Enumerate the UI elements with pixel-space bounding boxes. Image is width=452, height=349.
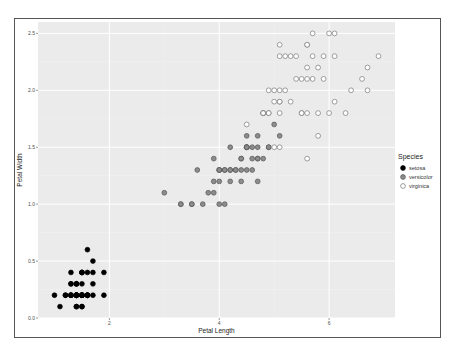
data-point-virginica bbox=[310, 54, 315, 59]
data-point-versicolor bbox=[239, 156, 244, 161]
data-point-setosa bbox=[102, 270, 107, 275]
data-point-virginica bbox=[283, 88, 288, 93]
data-point-versicolor bbox=[266, 145, 271, 150]
data-point-versicolor bbox=[250, 156, 255, 161]
data-point-setosa bbox=[69, 293, 74, 298]
data-point-setosa bbox=[69, 270, 74, 275]
data-point-setosa bbox=[80, 293, 85, 298]
data-point-virginica bbox=[349, 88, 354, 93]
data-point-versicolor bbox=[228, 168, 233, 173]
data-point-virginica bbox=[327, 111, 332, 116]
data-point-virginica bbox=[321, 54, 326, 59]
x-tick-label: 2 bbox=[108, 320, 111, 326]
data-point-setosa bbox=[102, 293, 107, 298]
y-axis: 0.00.51.01.52.02.5 bbox=[28, 30, 38, 321]
data-point-virginica bbox=[261, 111, 266, 116]
data-point-virginica bbox=[277, 99, 282, 104]
data-point-versicolor bbox=[255, 179, 260, 184]
data-point-virginica bbox=[305, 65, 310, 70]
data-point-setosa bbox=[91, 281, 96, 286]
data-point-versicolor bbox=[228, 179, 233, 184]
data-point-virginica bbox=[343, 111, 348, 116]
data-point-virginica bbox=[266, 88, 271, 93]
data-point-setosa bbox=[63, 293, 68, 298]
x-axis: 246 bbox=[108, 318, 331, 326]
data-point-versicolor bbox=[239, 179, 244, 184]
data-point-virginica bbox=[272, 88, 277, 93]
data-point-virginica bbox=[277, 54, 282, 59]
data-point-virginica bbox=[299, 77, 304, 82]
data-point-virginica bbox=[272, 99, 277, 104]
data-point-virginica bbox=[299, 111, 304, 116]
data-point-setosa bbox=[85, 247, 90, 252]
legend-label-virginica: virginica bbox=[409, 183, 430, 189]
data-point-virginica bbox=[305, 77, 310, 82]
data-point-virginica bbox=[332, 99, 337, 104]
data-point-setosa bbox=[91, 293, 96, 298]
x-tick-label: 4 bbox=[218, 320, 221, 326]
data-point-virginica bbox=[332, 31, 337, 36]
data-point-setosa bbox=[74, 304, 79, 309]
data-point-versicolor bbox=[244, 168, 249, 173]
y-tick-label: 1.5 bbox=[28, 144, 35, 150]
data-point-virginica bbox=[305, 156, 310, 161]
data-point-virginica bbox=[360, 77, 365, 82]
data-point-virginica bbox=[288, 99, 293, 104]
y-tick-label: 2.0 bbox=[28, 87, 35, 93]
data-point-versicolor bbox=[233, 168, 238, 173]
data-point-virginica bbox=[316, 111, 321, 116]
data-point-versicolor bbox=[211, 179, 216, 184]
data-point-virginica bbox=[310, 31, 315, 36]
data-point-virginica bbox=[316, 133, 321, 138]
data-point-virginica bbox=[316, 65, 321, 70]
data-point-versicolor bbox=[217, 168, 222, 173]
data-point-virginica bbox=[365, 65, 370, 70]
legend-title: Species bbox=[398, 153, 423, 161]
data-point-virginica bbox=[288, 54, 293, 59]
data-point-versicolor bbox=[222, 202, 227, 207]
data-point-versicolor bbox=[206, 190, 211, 195]
data-point-virginica bbox=[321, 77, 326, 82]
data-point-versicolor bbox=[244, 133, 249, 138]
data-point-versicolor bbox=[162, 190, 167, 195]
data-point-versicolor bbox=[277, 133, 282, 138]
data-point-setosa bbox=[85, 293, 90, 298]
data-point-virginica bbox=[277, 111, 282, 116]
data-point-versicolor bbox=[272, 122, 277, 127]
data-point-versicolor bbox=[239, 168, 244, 173]
data-point-setosa bbox=[74, 293, 79, 298]
data-point-virginica bbox=[332, 54, 337, 59]
data-point-virginica bbox=[283, 54, 288, 59]
data-point-versicolor bbox=[200, 202, 205, 207]
data-point-virginica bbox=[294, 77, 299, 82]
y-axis-title: Petal Width bbox=[16, 153, 23, 187]
data-point-setosa bbox=[80, 281, 85, 286]
legend-key-virginica bbox=[401, 184, 406, 189]
data-point-setosa bbox=[80, 304, 85, 309]
data-point-virginica bbox=[244, 122, 249, 127]
data-point-versicolor bbox=[250, 145, 255, 150]
data-point-virginica bbox=[376, 54, 381, 59]
data-point-virginica bbox=[277, 145, 282, 150]
y-tick-label: 0.5 bbox=[28, 258, 35, 264]
data-point-setosa bbox=[74, 281, 79, 286]
data-point-versicolor bbox=[217, 179, 222, 184]
data-point-setosa bbox=[58, 304, 63, 309]
data-point-virginica bbox=[272, 145, 277, 150]
x-axis-title: Petal Length bbox=[198, 327, 235, 335]
data-point-versicolor bbox=[189, 202, 194, 207]
legend-label-setosa: setosa bbox=[409, 165, 426, 171]
legend-key-setosa bbox=[401, 166, 406, 171]
data-point-virginica bbox=[327, 31, 332, 36]
data-point-versicolor bbox=[222, 168, 227, 173]
data-point-setosa bbox=[52, 293, 57, 298]
data-point-virginica bbox=[277, 88, 282, 93]
data-point-versicolor bbox=[217, 202, 222, 207]
data-point-setosa bbox=[80, 270, 85, 275]
data-point-setosa bbox=[91, 270, 96, 275]
data-point-virginica bbox=[310, 77, 315, 82]
data-point-setosa bbox=[85, 270, 90, 275]
data-point-versicolor bbox=[211, 190, 216, 195]
y-tick-label: 1.0 bbox=[28, 201, 35, 207]
data-point-virginica bbox=[305, 111, 310, 116]
